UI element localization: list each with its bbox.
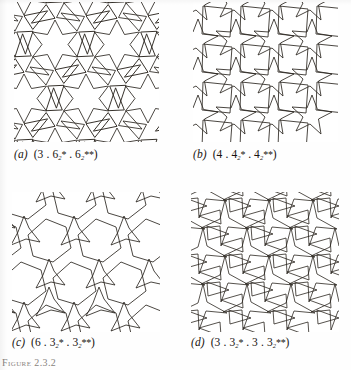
caption-c-symbol: (6 . 32* . 32**) xyxy=(28,336,95,348)
tiling-plate-c xyxy=(12,192,160,332)
tiling-plate-a xyxy=(14,2,159,142)
caption-d-label: (d) xyxy=(191,336,205,348)
caption-a-label: (a) xyxy=(14,148,28,160)
tiling-figure: (a) (3 . 62* . 62**) xyxy=(0,0,351,370)
figure-number: Figure 2.3.2 xyxy=(2,357,56,368)
tiling-drawing-b xyxy=(193,2,338,142)
tiling-drawing-a xyxy=(14,2,159,142)
tiling-drawing-c xyxy=(12,192,160,332)
caption-b-symbol: (4 . 42* . 42**) xyxy=(210,148,277,160)
tiling-drawing-d xyxy=(191,192,339,332)
caption-a-symbol: (3 . 62* . 62**) xyxy=(31,148,98,160)
caption-d-symbol: (3 . 32* . 3 . 32**) xyxy=(208,336,290,348)
tiling-plate-b xyxy=(193,2,338,142)
tiling-plate-d xyxy=(191,192,339,332)
caption-c-label: (c) xyxy=(12,336,25,348)
caption-b-label: (b) xyxy=(193,148,207,160)
